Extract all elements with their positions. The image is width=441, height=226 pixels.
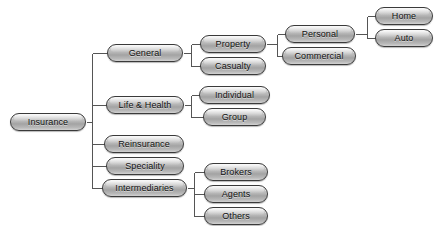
node-intermediaries-label: Intermediaries	[103, 180, 186, 196]
node-home-label: Home	[376, 8, 432, 24]
node-insurance-label: Insurance	[11, 114, 85, 130]
node-group-label: Group	[204, 109, 265, 125]
node-life-health-label: Life & Health	[107, 97, 183, 113]
node-others[interactable]: Others	[204, 207, 268, 225]
node-group[interactable]: Group	[203, 108, 266, 126]
node-property[interactable]: Property	[200, 35, 266, 53]
node-reinsurance[interactable]: Reinsurance	[104, 135, 184, 153]
node-commercial-label: Commercial	[283, 48, 355, 64]
node-life-health[interactable]: Life & Health	[106, 96, 184, 114]
node-home[interactable]: Home	[375, 7, 433, 25]
node-casualty-label: Casualty	[201, 58, 265, 74]
node-insurance[interactable]: Insurance	[10, 113, 86, 131]
node-brokers-label: Brokers	[205, 164, 267, 180]
node-agents[interactable]: Agents	[204, 185, 268, 203]
node-reinsurance-label: Reinsurance	[105, 136, 183, 152]
node-individual[interactable]: Individual	[199, 86, 270, 104]
node-speciality[interactable]: Speciality	[106, 157, 184, 175]
node-intermediaries[interactable]: Intermediaries	[102, 179, 187, 197]
node-agents-label: Agents	[205, 186, 267, 202]
node-commercial[interactable]: Commercial	[282, 47, 356, 65]
node-auto[interactable]: Auto	[375, 29, 433, 47]
node-speciality-label: Speciality	[107, 158, 183, 174]
node-brokers[interactable]: Brokers	[204, 163, 268, 181]
node-general-label: General	[108, 45, 182, 61]
insurance-hierarchy-diagram: Insurance General Life & Health Reinsura…	[0, 0, 441, 226]
node-others-label: Others	[205, 208, 267, 224]
node-property-label: Property	[201, 36, 265, 52]
node-personal[interactable]: Personal	[285, 25, 355, 43]
node-general[interactable]: General	[107, 44, 183, 62]
node-individual-label: Individual	[200, 87, 269, 103]
node-casualty[interactable]: Casualty	[200, 57, 266, 75]
node-personal-label: Personal	[286, 26, 354, 42]
node-auto-label: Auto	[376, 30, 432, 46]
